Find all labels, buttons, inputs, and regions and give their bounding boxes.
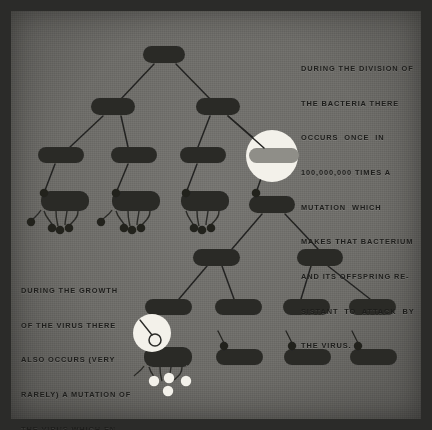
bacterium-node	[38, 147, 84, 163]
bacterium-node	[143, 46, 185, 63]
virus-particle	[27, 218, 35, 226]
virus-particle	[252, 189, 261, 198]
bacterium-node	[91, 98, 135, 115]
virus-particle	[207, 224, 216, 233]
bacterium-node	[145, 299, 192, 315]
caption-line: OCCURS ONCE IN	[301, 132, 415, 144]
lysed-bacterium-group	[27, 189, 89, 235]
virus-particle	[65, 224, 74, 233]
virus-particle	[128, 226, 137, 235]
mutant-virus-particle	[149, 376, 159, 386]
bacterium-node	[193, 249, 240, 266]
mutant-virus-particle	[181, 376, 191, 386]
lysed-bacterium-group	[97, 189, 160, 235]
mutant-virus-spotlight	[133, 314, 171, 352]
resistant-bacterium-node	[249, 189, 295, 213]
virus-particle	[120, 224, 129, 233]
mutant-bacterium-spotlight	[246, 130, 299, 182]
caption-line: SISTANT TO ATTACK BY	[301, 306, 415, 318]
bacterium-node	[216, 349, 263, 365]
virus-particle	[137, 224, 146, 233]
caption-line: 100,000,000 TIMES A	[301, 167, 415, 179]
virus-particle	[40, 189, 49, 198]
caption-line: THE VIRUS WHICH EN-	[21, 424, 131, 430]
virus-particle	[56, 226, 65, 235]
caption-line: THE BACTERIA THERE	[301, 98, 415, 110]
caption-line: AND ITS OFFSPRING RE-	[301, 271, 415, 283]
lysed-by-mutant-virus-group	[134, 347, 192, 396]
caption-line: DURING THE GROWTH	[21, 285, 131, 297]
bacteria-tree-edges	[44, 64, 266, 193]
caption-line: ALSO OCCURS (VERY	[21, 354, 131, 366]
virus-particle	[112, 189, 121, 198]
virus-particle	[48, 224, 57, 233]
virus-particle	[182, 189, 191, 198]
figure-canvas: DURING THE DIVISION OF THE BACTERIA THER…	[0, 0, 432, 430]
caption-line: DURING THE DIVISION OF	[301, 63, 415, 75]
virus-mutation-caption: DURING THE GROWTH OF THE VIRUS THERE ALS…	[21, 262, 131, 430]
bacterium-with-virus-group	[216, 331, 263, 365]
mutant-bacterium-edge	[228, 116, 264, 148]
caption-line: THE VIRUS.	[301, 340, 415, 352]
virus-particle	[97, 218, 105, 226]
bacterium-node	[196, 98, 240, 115]
bacteria-mutation-caption: DURING THE DIVISION OF THE BACTERIA THER…	[301, 40, 415, 375]
bacterium-node	[180, 147, 226, 163]
virus-particle	[198, 226, 207, 235]
bacteria-tree-nodes	[38, 46, 240, 163]
bacterium-node	[215, 299, 262, 315]
lysed-bacterium-group	[181, 189, 229, 235]
caption-line: MAKES THAT BACTERIUM	[301, 236, 415, 248]
mutant-bacterium-node	[249, 148, 299, 163]
virus-particle	[190, 224, 199, 233]
mutant-virus-particle	[163, 386, 173, 396]
caption-line: RARELY) A MUTATION OF	[21, 389, 131, 401]
mutant-virus-particle	[164, 373, 174, 383]
bacterium-node	[111, 147, 157, 163]
caption-line: MUTATION WHICH	[301, 202, 415, 214]
caption-line: OF THE VIRUS THERE	[21, 320, 131, 332]
